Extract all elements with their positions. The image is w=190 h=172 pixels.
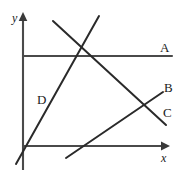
graph-canvas: [0, 0, 190, 172]
line-d: [16, 16, 99, 164]
axes-group: [19, 12, 170, 170]
line-label-a: A: [160, 41, 169, 54]
y-axis-arrowhead: [19, 12, 28, 21]
line-b: [66, 92, 163, 158]
graph-figure: A B C D x y: [0, 0, 190, 172]
x-axis-label: x: [161, 152, 166, 164]
line-label-b: B: [164, 81, 173, 94]
line-c: [53, 21, 166, 125]
line-label-d: D: [37, 93, 46, 106]
line-label-c: C: [163, 106, 172, 119]
lines-group: [16, 16, 172, 164]
y-axis-label: y: [12, 12, 17, 24]
x-axis-arrowhead: [161, 142, 170, 151]
